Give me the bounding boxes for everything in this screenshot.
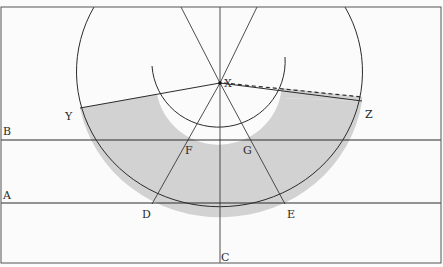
- label-y: Y: [64, 110, 73, 123]
- label-d: D: [142, 208, 151, 221]
- label-x: X: [224, 77, 232, 90]
- label-f: F: [185, 144, 193, 157]
- label-z: Z: [365, 108, 373, 121]
- label-e: E: [287, 208, 295, 221]
- point-x: [218, 81, 222, 85]
- diagram-frame: [1, 7, 441, 263]
- shaded-region: [80, 94, 362, 217]
- spoke-x-top-left: [181, 7, 220, 83]
- spoke-x-top-right: [220, 7, 257, 83]
- label-a: A: [2, 189, 12, 202]
- geometry-diagram: X Y Z B A C D E F G: [0, 0, 443, 267]
- label-c: C: [221, 251, 229, 264]
- label-g: G: [243, 144, 252, 157]
- label-b: B: [3, 125, 11, 138]
